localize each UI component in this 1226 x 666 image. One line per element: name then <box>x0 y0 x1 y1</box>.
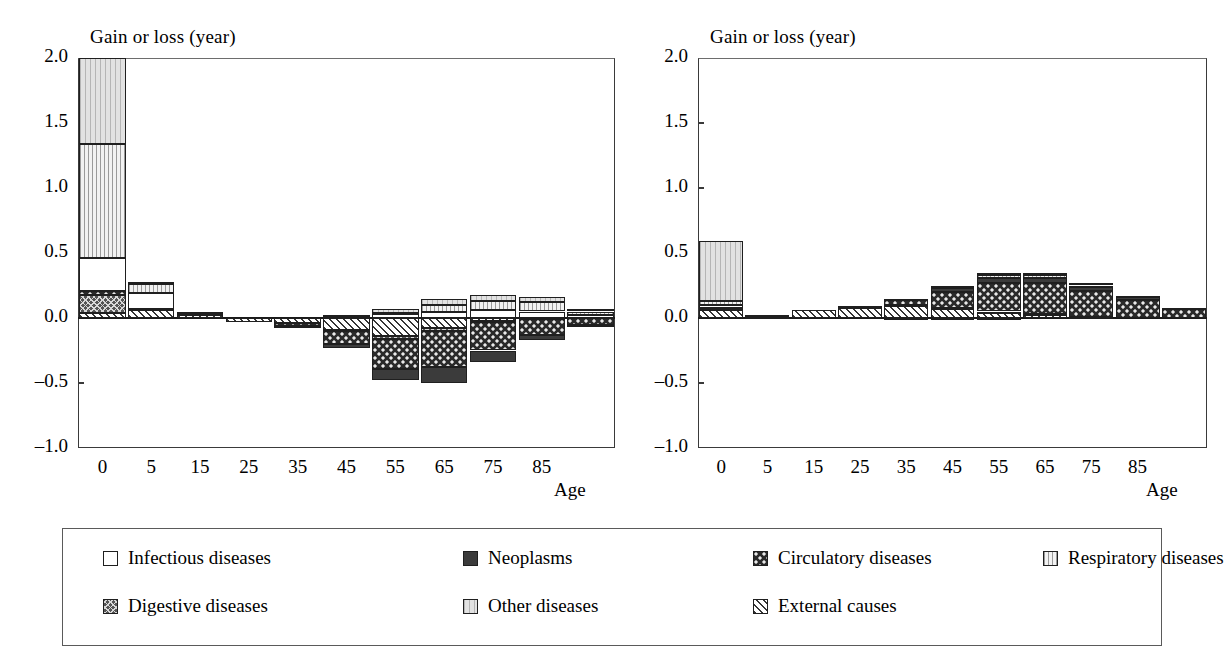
legend-swatch-neoplasms-icon <box>463 551 478 566</box>
bar-segment-infectious <box>470 310 516 318</box>
legend-swatch-respiratory-icon <box>1043 551 1058 566</box>
bar-segment-external <box>931 309 975 318</box>
bar-segment-external <box>699 310 743 318</box>
panel-b-x-axis-title: Age <box>1146 479 1178 501</box>
bar-segment-external <box>884 306 928 318</box>
bar-segment-external <box>177 315 223 318</box>
bar-segment-other <box>1023 273 1067 276</box>
bar-segment-neoplasms <box>977 278 1021 283</box>
y-axis-tick-label: 1.5 <box>626 110 688 132</box>
bar-segment-other <box>323 315 369 317</box>
bar-segment-other <box>745 315 789 317</box>
bar-segment-other <box>421 299 467 306</box>
legend-label: Digestive diseases <box>128 595 268 617</box>
y-axis-tick-mark <box>698 187 704 188</box>
y-axis-tick-label: –0.5 <box>626 370 688 392</box>
bar-segment-digestive <box>931 308 975 310</box>
bar-segment-circulatory <box>470 322 516 351</box>
bar-segment-infectious <box>699 305 743 308</box>
bar-segment-circulatory <box>79 291 125 295</box>
bar-segment-other <box>699 241 743 301</box>
legend-item-respiratory[interactable]: Respiratory diseases <box>1043 547 1224 569</box>
bar-segment-neoplasms <box>567 325 613 327</box>
bar-segment-circulatory <box>884 300 928 305</box>
y-axis-tick-label: 2.0 <box>626 45 688 67</box>
y-axis-tick-label: –0.5 <box>6 370 68 392</box>
y-axis-tick-label: 1.0 <box>626 175 688 197</box>
bar-segment-neoplasms <box>274 326 320 328</box>
legend-label: External causes <box>778 595 897 617</box>
bar-segment-circulatory <box>699 308 743 310</box>
bar-segment-external <box>838 308 882 318</box>
bar-segment-circulatory <box>977 283 1021 312</box>
legend-item-neoplasms[interactable]: Neoplasms <box>463 547 572 569</box>
legend-label: Circulatory diseases <box>778 547 932 569</box>
bar-segment-other <box>567 309 613 312</box>
legend-item-other[interactable]: Other diseases <box>463 595 598 617</box>
legend-item-external[interactable]: External causes <box>753 595 897 617</box>
panel-b-plot-area <box>698 58 1207 448</box>
bar-segment-external <box>226 318 272 322</box>
legend-swatch-external-icon <box>753 599 768 614</box>
bar-segment-circulatory <box>1069 291 1113 317</box>
bar-segment-other <box>931 286 975 288</box>
bar-segment-infectious <box>519 312 565 319</box>
bar-segment-circulatory <box>421 331 467 367</box>
legend-label: Neoplasms <box>488 547 572 569</box>
legend-row-1: Infectious diseasesNeoplasmsCirculatory … <box>63 547 1161 587</box>
bar-segment-neoplasms <box>323 344 369 348</box>
bar-segment-other <box>470 295 516 302</box>
bar-segment-digestive <box>884 305 928 307</box>
y-axis-tick-label: –1.0 <box>6 435 68 457</box>
bar-segment-other <box>977 273 1021 276</box>
bar-segment-respiratory <box>79 144 125 258</box>
bar-segment-neoplasms <box>1023 278 1067 283</box>
bar-segment-respiratory <box>519 302 565 311</box>
bar-segment-respiratory <box>372 313 418 315</box>
y-axis-tick-label: 0.0 <box>626 305 688 327</box>
bar-segment-neoplasms <box>519 335 565 340</box>
bar-segment-external <box>128 310 174 318</box>
legend-label: Infectious diseases <box>128 547 271 569</box>
legend-swatch-circulatory-icon <box>753 551 768 566</box>
legend-item-circulatory[interactable]: Circulatory diseases <box>753 547 932 569</box>
bar-segment-respiratory <box>977 275 1021 278</box>
bar-segment-external <box>79 313 125 318</box>
legend-label: Respiratory diseases <box>1068 547 1224 569</box>
legend-swatch-other-icon <box>463 599 478 614</box>
x-axis-tick-label: 85 <box>1108 456 1168 478</box>
bar-segment-infectious <box>567 315 613 318</box>
bar-segment-external <box>372 318 418 336</box>
bar-segment-external <box>792 310 836 318</box>
y-axis-tick-label: 0.5 <box>6 240 68 262</box>
legend-item-digestive[interactable]: Digestive diseases <box>103 595 268 617</box>
bar-segment-other <box>177 312 223 314</box>
bar-segment-external <box>323 318 369 330</box>
bar-segment-infectious <box>931 318 975 320</box>
bar-segment-neoplasms <box>470 351 516 363</box>
bar-segment-respiratory <box>1069 286 1113 288</box>
bar-segment-circulatory <box>372 339 418 369</box>
legend-item-infectious[interactable]: Infectious diseases <box>103 547 271 569</box>
bar-segment-infectious <box>977 318 1021 320</box>
bar-segment-circulatory <box>1162 309 1206 318</box>
y-axis-tick-label: 0.5 <box>626 240 688 262</box>
bar-segment-digestive <box>1023 314 1067 316</box>
panel-a: Gain or loss (year) A. 1965–1991 Age 2.0… <box>0 0 640 510</box>
bar-segment-circulatory <box>1023 283 1067 314</box>
figure-root: Gain or loss (year) A. 1965–1991 Age 2.0… <box>0 0 1226 666</box>
bar-segment-circulatory <box>323 331 369 344</box>
y-axis-tick-label: 2.0 <box>6 45 68 67</box>
bar-segment-respiratory <box>1023 275 1067 278</box>
y-axis-tick-label: 1.0 <box>6 175 68 197</box>
legend-swatch-infectious-icon <box>103 551 118 566</box>
bar-segment-neoplasms <box>372 369 418 381</box>
bar-segment-respiratory <box>128 284 174 293</box>
bar-segment-other <box>128 282 174 285</box>
bar-segment-circulatory <box>519 319 565 335</box>
bar-segment-digestive <box>128 309 174 311</box>
bar-segment-other <box>519 297 565 302</box>
bar-segment-infectious <box>128 293 174 309</box>
bar-segment-other <box>1069 283 1113 286</box>
bar-segment-respiratory <box>567 312 613 316</box>
